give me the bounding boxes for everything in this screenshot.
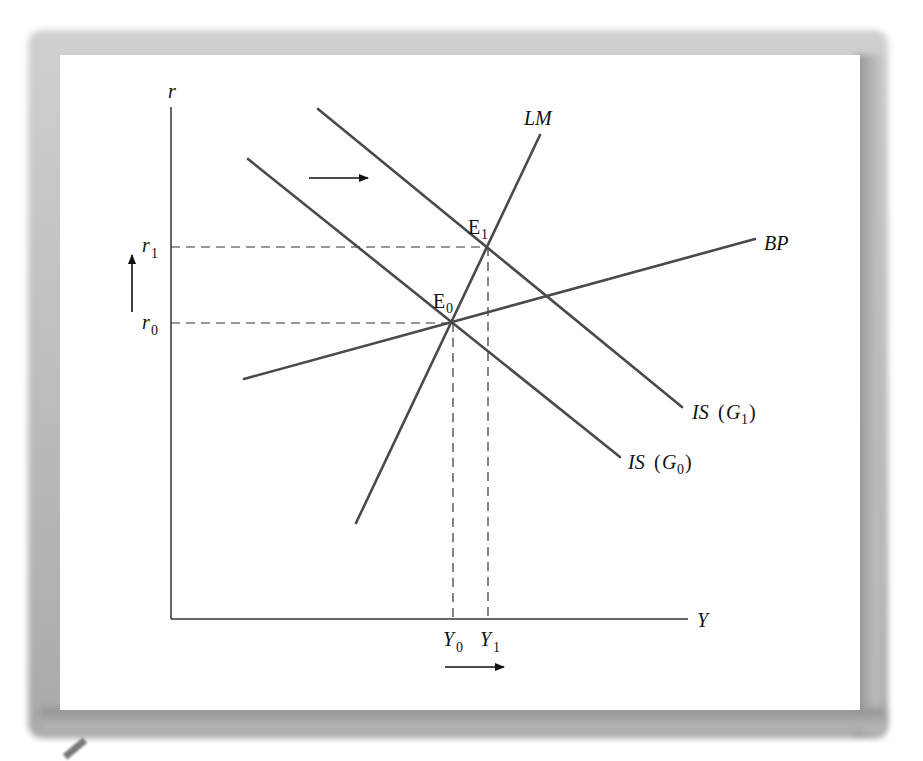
is-g1-label-main: IS [691,401,709,423]
is-g0-label-paren-close: ) [685,451,692,474]
e0-label-sub: 0 [446,301,453,316]
is-g0-label-paren-open: ( [654,451,661,474]
e1-label-sub: 1 [481,227,488,242]
r1-tick-label: r 1 [142,234,158,261]
is-g1-label: IS ( G 1 ) [691,401,756,427]
bp-label: BP [764,232,788,254]
is-g0-label-var: G [662,451,677,473]
is-g1-label-sub: 1 [741,412,748,427]
r1-label-sub: 1 [151,246,158,261]
is-g1-label-paren-close: ) [749,401,756,424]
bp-curve [244,239,755,379]
y0-label-base: Y [443,628,456,650]
is-g1-label-var: G [726,401,741,423]
is-lm-bp-diagram: r Y LM BP IS ( G 1 ) IS ( G 0 ) E 1 E 0 [0,0,923,761]
e1-label-base: E [468,216,480,238]
e0-label: E 0 [433,290,453,316]
r0-label-sub: 0 [151,323,158,338]
is-g0-label: IS ( G 0 ) [627,451,692,477]
e1-label: E 1 [468,216,488,242]
is-g0-label-sub: 0 [677,462,684,477]
axes: r Y [168,80,710,631]
curves [244,109,755,523]
is-g0-label-main: IS [627,451,645,473]
y-axis-label: r [168,80,176,102]
x-axis-label: Y [697,609,710,631]
y1-tick-label: Y 1 [480,628,500,655]
e0-label-base: E [433,290,445,312]
is-g1-label-paren-open: ( [718,401,725,424]
lm-label: LM [523,107,553,129]
y1-label-base: Y [480,628,493,650]
y1-label-sub: 1 [493,640,500,655]
lm-curve [356,135,540,523]
r0-tick-label: r 0 [142,311,158,338]
y0-label-sub: 0 [456,640,463,655]
r0-label-base: r [142,311,150,333]
y0-tick-label: Y 0 [443,628,463,655]
r1-label-base: r [142,234,150,256]
